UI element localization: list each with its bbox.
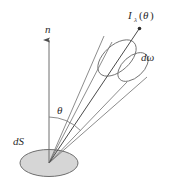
radiance-close-paren: ) — [150, 9, 154, 22]
theta-label: θ — [57, 104, 63, 116]
surface-element-label: dS — [13, 135, 25, 147]
radiance-argument: θ — [143, 9, 149, 21]
solid-angle-near-rim — [91, 33, 143, 83]
radiance-diagram: n θ dS dω I λ ( θ ) — [0, 0, 171, 182]
ray-endpoint-dot — [138, 27, 142, 31]
normal-label: n — [45, 23, 51, 35]
solid-angle-label: dω — [141, 51, 155, 63]
radiance-label-group: I λ ( θ ) — [127, 9, 154, 24]
radiance-subscript: λ — [133, 16, 137, 24]
diagram-canvas: n θ dS dω I λ ( θ ) — [0, 0, 171, 182]
radiance-symbol: I — [127, 9, 133, 21]
